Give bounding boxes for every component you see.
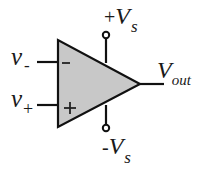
non-inverting-input-label-sub: + — [23, 99, 33, 119]
negative-supply-label-main: V — [109, 133, 124, 159]
output-label: Vout — [157, 58, 191, 82]
negative-supply-label: -Vs — [102, 134, 130, 158]
negative-supply-prefix: - — [102, 136, 109, 158]
positive-supply-label-sub: s — [131, 17, 138, 36]
positive-supply-label-main: V — [115, 3, 130, 29]
negative-supply-label-sub: s — [124, 148, 131, 167]
output-label-main: V — [157, 57, 172, 83]
positive-supply-prefix: + — [104, 6, 115, 28]
negative-supply-terminal-icon — [103, 125, 109, 131]
op-amp-diagram: v- v+ +Vs -Vs Vout — [0, 0, 205, 170]
positive-supply-terminal-icon — [103, 32, 109, 38]
inverting-input-label: v- — [11, 44, 28, 69]
output-label-sub: out — [172, 72, 191, 88]
inverting-input-label-main: v — [11, 43, 22, 70]
positive-supply-label: +Vs — [104, 4, 137, 28]
non-inverting-input-label-main: v — [11, 85, 22, 112]
non-inverting-input-label: v+ — [11, 86, 32, 111]
inverting-input-label-sub: - — [24, 56, 30, 75]
